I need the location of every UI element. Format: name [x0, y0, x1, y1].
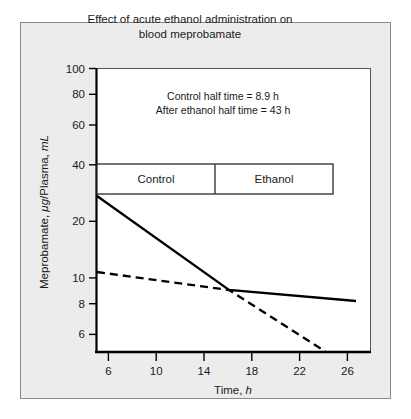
x-tick-label-26: 26	[341, 365, 354, 377]
x-tick-label-10: 10	[150, 365, 163, 377]
y-tick-label-40: 40	[72, 159, 85, 171]
x-tick-label-18: 18	[245, 365, 258, 377]
x-tick-label-14: 14	[198, 365, 211, 377]
legend-label-control: Control	[137, 173, 174, 185]
x-tick-label-6: 6	[105, 365, 111, 377]
x-axis-title: Time, h	[214, 384, 252, 396]
x-tick-label-22: 22	[293, 365, 306, 377]
figure-root: Effect of acute ethanol administration o…	[0, 0, 411, 419]
y-tick-label-80: 80	[72, 88, 85, 100]
annotation-control-half-time: Control half time = 8.9 h	[167, 90, 279, 102]
y-axis-ticks	[89, 69, 96, 335]
y-tick-label-60: 60	[72, 119, 85, 131]
x-axis-ticks	[108, 353, 347, 361]
annotation-ethanol-half-time: After ethanol half time = 43 h	[156, 104, 291, 116]
y-tick-label-8: 8	[79, 298, 85, 310]
y-tick-label-6: 6	[79, 328, 85, 340]
legend-label-ethanol: Ethanol	[254, 173, 293, 185]
y-tick-label-20: 20	[72, 215, 85, 227]
chart-plot: 100 80 60 40 20 10 8 6 6 10 14 18 22 26 …	[0, 0, 411, 419]
y-tick-label-100: 100	[66, 63, 85, 75]
y-tick-label-10: 10	[72, 272, 85, 284]
legend-box: Control Ethanol	[97, 164, 333, 194]
y-axis-title: Meprobamate, μg/Plasma, mL	[38, 135, 50, 289]
